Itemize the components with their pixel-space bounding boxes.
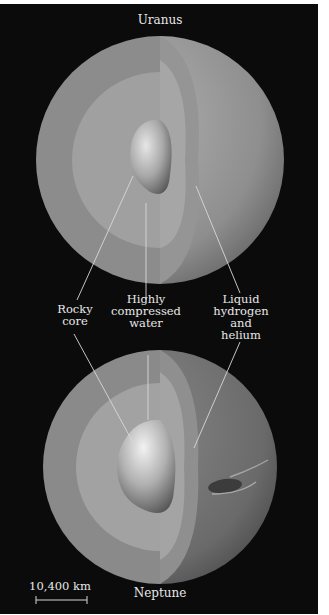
hydrogen-helium-label: Liquid hydrogen and helium — [200, 293, 282, 341]
neptune-planet — [43, 350, 277, 584]
water-label: Highly compressed water — [100, 293, 192, 329]
scale-bar-label: 10,400 km — [25, 580, 95, 592]
neptune-title: Neptune — [120, 587, 200, 599]
uranus-planet — [36, 36, 284, 284]
uranus-title: Uranus — [120, 14, 200, 26]
scale-bar — [36, 596, 87, 604]
